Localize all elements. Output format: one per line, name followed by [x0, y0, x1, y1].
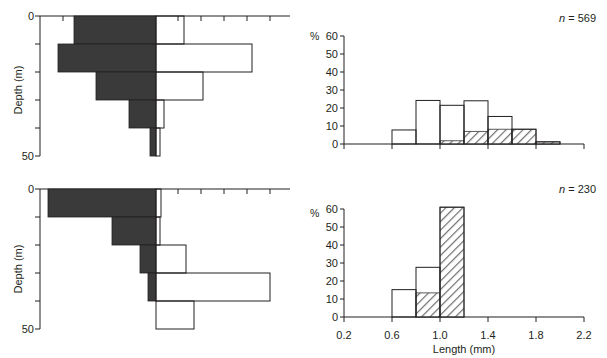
x-tick-label-3: 1.4 — [480, 329, 495, 341]
length-histogram-top-svg: n = 569 % 60 50 40 30 20 10 0 — [304, 0, 607, 179]
open-bars-right — [156, 16, 252, 156]
y-axis-unit-label: % — [310, 207, 319, 219]
y-tick-label-50: 50 — [22, 150, 34, 162]
x-tick-label-0: 0.2 — [336, 329, 351, 341]
y-tick-label-20: 20 — [326, 102, 338, 114]
y-tick-label-20: 20 — [326, 275, 338, 287]
sample-size-value: 569 — [578, 12, 596, 24]
y-tick-label-50: 50 — [326, 48, 338, 60]
y-axis-ticks — [340, 36, 344, 144]
x-axis-title: Length (mm) — [433, 343, 495, 355]
y-axis-title: Depth (m) — [12, 66, 24, 115]
y-tick-label-0: 0 — [332, 311, 338, 323]
y-tick-label-30: 30 — [326, 257, 338, 269]
x-tick-label-5: 2.2 — [576, 329, 591, 341]
panel-length-histogram-bottom: n = 230 % 60 50 40 30 20 10 0 — [304, 179, 607, 358]
x-tick-label-4: 1.8 — [528, 329, 543, 341]
depth-profile-bottom-svg: Depth (m) 0 50 — [0, 179, 304, 358]
y-axis-title: Depth (m) — [12, 245, 24, 294]
y-axis-ticks — [340, 209, 344, 317]
x-tick-label-1: 0.6 — [384, 329, 399, 341]
y-tick-label-50: 50 — [22, 323, 34, 335]
filled-bars-left — [58, 16, 156, 156]
y-tick-label-60: 60 — [326, 30, 338, 42]
y-tick-label-0: 0 — [28, 183, 34, 195]
y-tick-label-0: 0 — [332, 138, 338, 150]
y-tick-label-60: 60 — [326, 203, 338, 215]
open-bars-right — [156, 189, 270, 329]
sample-size-annotation: n = 230 — [559, 183, 596, 195]
sample-size-equals: = — [565, 183, 578, 195]
y-tick-label-10: 10 — [326, 120, 338, 132]
y-tick-label-40: 40 — [326, 66, 338, 78]
panel-depth-profile-bottom: Depth (m) 0 50 — [0, 179, 304, 358]
y-tick-label-0: 0 — [28, 10, 34, 22]
y-axis-unit-label: % — [310, 30, 319, 42]
y-tick-label-50: 50 — [326, 221, 338, 233]
figure-root: Depth (m) 0 50 — [0, 0, 607, 358]
y-tick-label-30: 30 — [326, 84, 338, 96]
sample-size-equals: = — [565, 12, 578, 24]
y-tick-label-10: 10 — [326, 293, 338, 305]
length-histogram-bottom-svg: n = 230 % 60 50 40 30 20 10 0 — [304, 179, 607, 358]
filled-bars-left — [48, 189, 156, 301]
y-axis-ticks — [35, 189, 40, 329]
x-tick-label-2: 1.0 — [432, 329, 447, 341]
x-axis-ticks — [344, 317, 584, 322]
y-tick-label-40: 40 — [326, 239, 338, 251]
sample-size-value: 230 — [578, 183, 596, 195]
sample-size-annotation: n = 569 — [559, 12, 596, 24]
x-axis-ticks — [344, 144, 584, 149]
panel-depth-profile-top: Depth (m) 0 50 — [0, 0, 304, 179]
y-axis-ticks — [35, 16, 40, 156]
panel-length-histogram-top: n = 569 % 60 50 40 30 20 10 0 — [304, 0, 607, 179]
depth-profile-top-svg: Depth (m) 0 50 — [0, 0, 304, 179]
